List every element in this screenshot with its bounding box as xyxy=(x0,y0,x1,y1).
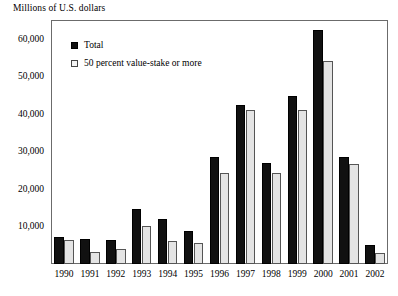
bar-1991-total xyxy=(80,239,90,264)
bar-1991-value-stake xyxy=(90,252,100,264)
bar-1990-value-stake xyxy=(64,240,74,264)
x-tick-label-1991: 1991 xyxy=(80,268,99,280)
x-tick-label-2000: 2000 xyxy=(314,268,333,280)
bar-1998-total xyxy=(262,163,272,264)
y-tick-label: 30,000 xyxy=(18,146,44,156)
bar-2000-total xyxy=(313,30,323,264)
x-axis: 1990199119921993199419951996199719981999… xyxy=(51,268,388,288)
bar-1996-value-stake xyxy=(220,173,230,264)
x-tick-label-1995: 1995 xyxy=(184,268,203,280)
chart-legend: Total 50 percent value-stake or more xyxy=(71,38,261,74)
y-tick-label: 50,000 xyxy=(18,71,44,81)
x-tick-label-1990: 1990 xyxy=(54,268,73,280)
y-tick-label: 10,000 xyxy=(18,221,44,231)
x-tick-label-1996: 1996 xyxy=(210,268,229,280)
bar-1999-total xyxy=(288,96,298,264)
bar-2000-value-stake xyxy=(323,61,333,264)
bar-1996-total xyxy=(210,157,220,264)
bar-1993-value-stake xyxy=(142,226,152,264)
bar-2002-total xyxy=(365,245,375,264)
bar-1993-total xyxy=(132,209,142,264)
bar-1999-value-stake xyxy=(298,110,308,264)
bar-1998-value-stake xyxy=(272,173,282,264)
bar-2001-total xyxy=(339,157,349,264)
x-tick-label-2001: 2001 xyxy=(340,268,359,280)
y-tick-label: 40,000 xyxy=(18,109,44,119)
x-tick-label-1992: 1992 xyxy=(106,268,125,280)
x-tick-label-2002: 2002 xyxy=(366,268,385,280)
filled-square-icon xyxy=(71,42,78,49)
bar-1992-total xyxy=(106,240,116,264)
x-tick-label-1993: 1993 xyxy=(132,268,151,280)
x-tick-label-1994: 1994 xyxy=(158,268,177,280)
bar-1997-value-stake xyxy=(246,110,256,264)
bar-1995-value-stake xyxy=(194,243,204,264)
x-tick-label-1998: 1998 xyxy=(262,268,281,280)
bar-2002-value-stake xyxy=(375,253,385,264)
y-tick-label: 60,000 xyxy=(18,34,44,44)
legend-label-total: Total xyxy=(84,40,103,51)
bar-1990-total xyxy=(54,237,64,264)
bar-1994-total xyxy=(158,219,168,264)
bar-1992-value-stake xyxy=(116,249,126,264)
bar-chart-figure: Millions of U.S. dollars 10,00020,00030,… xyxy=(0,0,398,296)
outline-square-icon xyxy=(71,60,78,67)
legend-item-value-stake: 50 percent value-stake or more xyxy=(71,56,261,71)
legend-label-value-stake: 50 percent value-stake or more xyxy=(84,58,202,69)
bar-2001-value-stake xyxy=(349,164,359,264)
x-tick-label-1999: 1999 xyxy=(288,268,307,280)
bar-1995-total xyxy=(184,231,194,264)
legend-item-total: Total xyxy=(71,38,261,53)
bar-1994-value-stake xyxy=(168,241,178,264)
bar-1997-total xyxy=(236,105,246,264)
y-tick-label: 20,000 xyxy=(18,184,44,194)
x-tick-label-1997: 1997 xyxy=(236,268,255,280)
y-axis: 10,00020,00030,00040,00050,00060,000 xyxy=(0,0,51,296)
